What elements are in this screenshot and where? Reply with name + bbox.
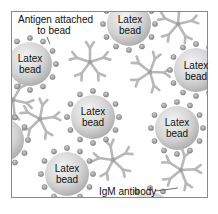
bead-label-line1: Latex [10, 53, 50, 64]
bead-label-line2: bead [157, 128, 197, 139]
bead-label-line2: bead [176, 71, 216, 82]
bead-label: Latex bead [176, 60, 216, 82]
bead-label-line2: bead [47, 174, 87, 185]
bead-label-line1: Latex [176, 60, 216, 71]
agglutination-diagram: Antigen attached to bead Latex bead Late… [0, 0, 218, 214]
bead-label-line1: Latex [157, 117, 197, 128]
bead-label: Latex bead [157, 117, 197, 139]
igm-antibody [90, 137, 137, 182]
igm-pointer-line [155, 188, 178, 191]
antigen-label-line1: Antigen attached [18, 14, 90, 25]
bead-label-line2: bead [73, 117, 113, 128]
bead-label-line2: bead [110, 25, 150, 36]
bead-label: Latex bead [47, 163, 87, 185]
bead-label-line1: Latex [110, 14, 150, 25]
antigen-label-line2: to bead [18, 25, 90, 36]
antigen-pointer-line [47, 37, 50, 44]
latex-bead-partial [0, 111, 31, 168]
bead-label-line1: Latex [73, 106, 113, 117]
bead-label: Latex bead [73, 106, 113, 128]
igm-antibody [156, 2, 200, 44]
igm-antibody [70, 42, 111, 81]
bead-label: Latex bead [110, 14, 150, 36]
antigen-label: Antigen attached to bead [18, 14, 90, 36]
bead-label-line2: bead [10, 64, 50, 75]
bead-label: Latex bead [10, 53, 50, 75]
igm-antibody-label: IgM antibody [99, 186, 156, 197]
bead-label-line1: Latex [47, 163, 87, 174]
